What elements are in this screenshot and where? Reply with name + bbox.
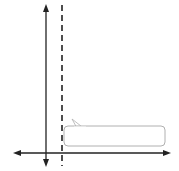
x-axis-left-arrow-icon [13, 150, 21, 156]
y-axis-down-arrow-icon [43, 159, 49, 167]
x-axis [13, 150, 171, 156]
y-axis-up-arrow-icon [43, 4, 49, 12]
equation-callout [0, 0, 165, 146]
x-axis-right-arrow-icon [163, 150, 171, 156]
parabola-chart [0, 0, 179, 171]
y-axis [43, 4, 49, 167]
